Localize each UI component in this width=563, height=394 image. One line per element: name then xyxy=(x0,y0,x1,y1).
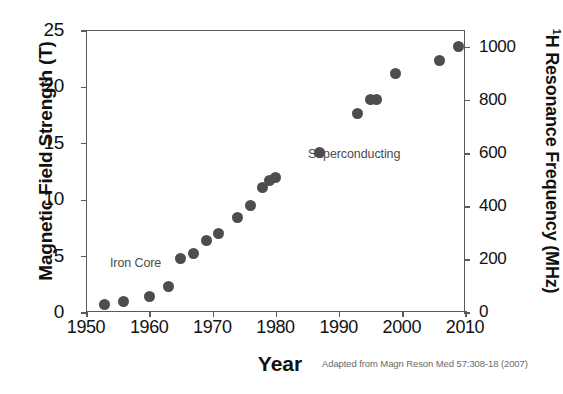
y2-tick-mark xyxy=(464,259,470,260)
x-tick-label: 1970 xyxy=(177,318,247,336)
annotation-iron-core: Iron Core xyxy=(110,256,161,270)
y2-tick-mark xyxy=(464,153,470,154)
y-tick-label: 5 xyxy=(18,246,64,265)
data-point xyxy=(352,108,363,119)
x-tick-label: 1990 xyxy=(304,318,374,336)
y-tick-label: 25 xyxy=(18,20,64,39)
y2-axis-title-text: H Resonance Frequency (MHz) xyxy=(542,35,562,294)
data-point xyxy=(213,228,224,239)
y2-tick-label: 800 xyxy=(479,91,527,108)
y-tick-mark xyxy=(81,87,87,88)
y-tick-label: 20 xyxy=(18,76,64,95)
source-credit: Adapted from Magn Reson Med 57:308-18 (2… xyxy=(322,358,528,369)
y-tick-label: 15 xyxy=(18,133,64,152)
y2-tick-mark xyxy=(464,206,470,207)
x-tick-label: 1980 xyxy=(241,318,311,336)
data-point xyxy=(99,299,110,310)
data-point xyxy=(163,281,174,292)
y-axis-title: Magnetic Field Strength (T) xyxy=(35,11,57,311)
data-point xyxy=(188,248,199,259)
data-point xyxy=(201,235,212,246)
x-tick-label: 1950 xyxy=(51,318,121,336)
y2-tick-mark xyxy=(464,100,470,101)
y2-tick-label: 400 xyxy=(479,197,527,214)
x-tick-label: 1960 xyxy=(114,318,184,336)
x-tick-label: 2000 xyxy=(367,318,437,336)
data-point xyxy=(232,212,243,223)
y2-axis-title: 1H Resonance Frequency (MHz) xyxy=(541,1,563,321)
y2-tick-mark xyxy=(464,47,470,48)
y-tick-mark xyxy=(81,143,87,144)
y-tick-mark xyxy=(81,256,87,257)
y2-tick-label: 200 xyxy=(479,250,527,267)
y-tick-label: 10 xyxy=(18,189,64,208)
y-tick-mark xyxy=(81,30,87,31)
y-tick-mark xyxy=(81,200,87,201)
x-tick-label: 2010 xyxy=(430,318,500,336)
y2-tick-label: 600 xyxy=(479,144,527,161)
y2-tick-label: 1000 xyxy=(479,38,527,55)
annotation-superconducting: Superconducting xyxy=(308,147,400,161)
data-point xyxy=(144,291,155,302)
